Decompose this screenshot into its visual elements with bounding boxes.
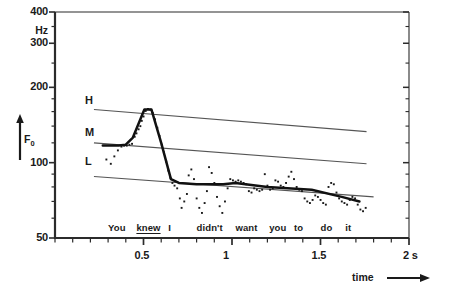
f0-point [196, 197, 198, 199]
f0-point [306, 201, 308, 203]
f0-point [259, 190, 261, 192]
f0-point [171, 182, 173, 184]
f0-point [325, 204, 327, 206]
y-tick-label: 400 [30, 5, 48, 17]
f0-point [113, 155, 115, 157]
x-axis-title: time [352, 271, 374, 283]
f0-point [237, 179, 239, 181]
f0-point [110, 163, 112, 165]
x-tick-label: 1.5 [312, 249, 327, 261]
x-tick-label: 0.5 [135, 249, 150, 261]
f0-point [251, 192, 253, 194]
f0-point [186, 193, 188, 195]
f0-point [351, 196, 353, 198]
f0-point [285, 182, 287, 184]
utterance-word: didn't [197, 222, 223, 233]
f0-point [359, 209, 361, 211]
f0-point [227, 187, 229, 189]
f0-point [343, 202, 345, 204]
x-tick-label: 2 s [403, 249, 418, 261]
f0-point [338, 197, 340, 199]
f0-point [274, 179, 276, 181]
chart-figure: 50100200300400HzF00.511.52 stimeHMLYoukn… [0, 0, 457, 299]
utterance-word: You [108, 222, 126, 233]
f0-point [264, 173, 266, 175]
f0-point [204, 202, 206, 204]
f0-point [277, 181, 279, 183]
f0-point [219, 205, 221, 207]
f0-point [181, 207, 183, 209]
utterance-word: do [321, 222, 333, 233]
f0-point [309, 202, 311, 204]
f0-point [117, 149, 119, 151]
f0-point [328, 186, 330, 188]
f0-point [190, 168, 192, 170]
y-axis-unit-label: Hz [35, 24, 48, 36]
f0-point [288, 176, 290, 178]
f0-point [290, 171, 292, 173]
f0-point [224, 201, 226, 203]
y-axis-title: F0 [24, 133, 35, 148]
utterance-word: to [294, 222, 303, 233]
f0-point [216, 196, 218, 198]
f0-point [176, 187, 178, 189]
f0-point [138, 128, 140, 130]
f0-point [229, 178, 231, 180]
f0-point [330, 182, 332, 184]
x-tick-label: 1 [223, 249, 229, 261]
y-tick-label: 50 [36, 231, 48, 243]
f0-point [280, 185, 282, 187]
utterance-word: knew [136, 222, 160, 233]
f0-point [206, 190, 208, 192]
f0-point [128, 144, 130, 146]
f0-point [346, 204, 348, 206]
f0-point [174, 185, 176, 187]
utterance-word: I [168, 222, 171, 233]
reference-line-label-L: L [85, 155, 92, 167]
utterance-word: want [236, 222, 258, 233]
f0-point [357, 204, 359, 206]
f0-point [293, 178, 295, 180]
f0-point [261, 189, 263, 191]
f0-point [269, 189, 271, 191]
f0-point [317, 196, 319, 198]
f0-point [336, 192, 338, 194]
f0-point [139, 125, 141, 127]
y-tick-label: 300 [30, 36, 48, 48]
f0-point [198, 207, 200, 209]
f0-point [232, 179, 234, 181]
utterance-word: it [345, 222, 351, 233]
y-tick-label: 200 [30, 80, 48, 92]
f0-point [322, 202, 324, 204]
f0-point [341, 201, 343, 203]
f0-point [301, 190, 303, 192]
reference-line-label-H: H [85, 94, 93, 106]
f0-point [312, 199, 314, 201]
f0-point [304, 197, 306, 199]
f0-point [105, 159, 107, 161]
f0-point [208, 166, 210, 168]
f0-point [362, 210, 364, 212]
f0-point [179, 197, 181, 199]
f0-point [211, 172, 213, 174]
f0-point [333, 183, 335, 185]
f0-point [188, 174, 190, 176]
y-tick-label: 100 [30, 156, 48, 168]
f0-point [131, 143, 133, 145]
f0-point [256, 189, 258, 191]
f0-point [193, 178, 195, 180]
f0-point [201, 212, 203, 214]
f0-point [365, 207, 367, 209]
f0-point [320, 199, 322, 201]
f0-point [221, 212, 223, 214]
reference-line-label-M: M [85, 126, 94, 138]
f0-point [183, 201, 185, 203]
f0-point [314, 194, 316, 196]
f0-point [248, 190, 250, 192]
f0-point [253, 187, 255, 189]
utterance-word: you [269, 222, 286, 233]
